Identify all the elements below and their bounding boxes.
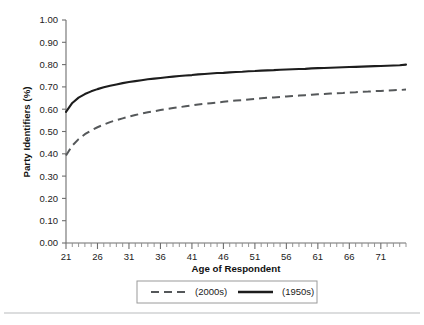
- x-axis-title: Age of Respondent: [192, 263, 282, 274]
- y-axis-title: Party Identifiers (%): [21, 87, 32, 178]
- x-tick-label-41: 41: [187, 251, 198, 262]
- y-tick-label-0.20: 0.20: [40, 193, 59, 204]
- y-axis-tick-marks: [62, 20, 66, 243]
- x-tick-label-26: 26: [92, 251, 103, 262]
- series-line-1950s: [66, 65, 406, 112]
- x-axis-tick-labels: 2126313641465156616671: [61, 251, 386, 262]
- y-tick-label-0.80: 0.80: [40, 59, 59, 70]
- x-tick-label-31: 31: [124, 251, 135, 262]
- y-tick-label-0.30: 0.30: [40, 171, 59, 182]
- x-tick-label-66: 66: [344, 251, 355, 262]
- x-tick-label-51: 51: [250, 251, 261, 262]
- chart-figure: 0.000.100.200.300.400.500.600.700.800.90…: [0, 0, 424, 325]
- legend: (2000s) (1950s): [137, 281, 317, 303]
- y-tick-label-0.40: 0.40: [40, 148, 59, 159]
- legend-label-1950s: (1950s): [282, 286, 314, 297]
- y-tick-label-0.60: 0.60: [40, 104, 59, 115]
- series-line-2000s: [66, 90, 406, 156]
- y-tick-label-1.00: 1.00: [40, 14, 59, 25]
- y-tick-label-0.10: 0.10: [40, 215, 59, 226]
- x-tick-label-46: 46: [218, 251, 229, 262]
- x-tick-label-56: 56: [281, 251, 292, 262]
- y-tick-label-0.00: 0.00: [40, 237, 59, 248]
- y-axis-tick-labels: 0.000.100.200.300.400.500.600.700.800.90…: [40, 14, 59, 248]
- x-tick-label-71: 71: [376, 251, 387, 262]
- x-axis-minor-ticks: [72, 243, 406, 247]
- y-tick-label-0.50: 0.50: [40, 126, 59, 137]
- x-axis-major-ticks: [66, 243, 381, 249]
- party-identifiers-line-chart: 0.000.100.200.300.400.500.600.700.800.90…: [0, 0, 424, 325]
- y-tick-label-0.90: 0.90: [40, 37, 59, 48]
- x-tick-label-21: 21: [61, 251, 72, 262]
- x-tick-label-61: 61: [313, 251, 324, 262]
- legend-label-2000s: (2000s): [195, 286, 227, 297]
- y-tick-label-0.70: 0.70: [40, 81, 59, 92]
- x-tick-label-36: 36: [155, 251, 166, 262]
